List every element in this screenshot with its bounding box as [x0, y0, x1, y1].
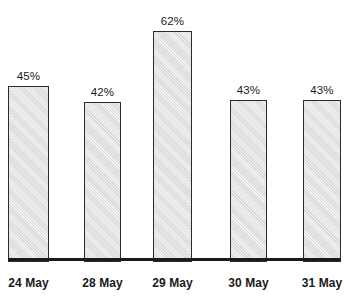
x-axis-line [8, 258, 341, 261]
bar-chart: 45% 42% 62% 43% 43% 24 May 28 May 29 May… [0, 0, 345, 307]
bar-group-3: 43% [230, 100, 267, 262]
bar-group-0: 45% [8, 86, 49, 262]
category-label-1: 28 May [82, 276, 123, 290]
bar[interactable] [153, 31, 192, 262]
plot-area: 45% 42% 62% 43% 43% [0, 0, 345, 262]
bar-value-label: 43% [237, 84, 260, 96]
bar-group-4: 43% [303, 100, 341, 262]
bar[interactable] [8, 86, 49, 262]
category-label-3: 30 May [228, 276, 269, 290]
category-label-0: 24 May [8, 276, 49, 290]
category-label-2: 29 May [152, 276, 193, 290]
bar-value-label: 62% [161, 15, 184, 27]
bar-value-label: 42% [91, 86, 114, 98]
bar-value-label: 43% [310, 84, 333, 96]
bar[interactable] [230, 100, 267, 262]
category-label-4: 31 May [302, 276, 343, 290]
bar-value-label: 45% [17, 70, 40, 82]
bar-group-1: 42% [84, 102, 121, 262]
bar[interactable] [84, 102, 121, 262]
bar[interactable] [303, 100, 341, 262]
category-axis: 24 May 28 May 29 May 30 May 31 May [0, 276, 345, 300]
bar-group-2: 62% [153, 31, 192, 262]
